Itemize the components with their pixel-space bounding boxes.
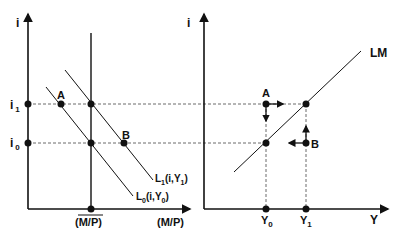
- point-a-right: [263, 101, 270, 108]
- right-x-axis-label: Y: [370, 213, 378, 227]
- point-a-left: [58, 101, 65, 108]
- point-b-left-label: B: [122, 129, 130, 141]
- y1-axis-point: [303, 206, 310, 213]
- i0-label: i0: [10, 136, 20, 152]
- i1-axis-point: [25, 101, 32, 108]
- l1-label: L1(i,Y1): [155, 173, 188, 186]
- right-y-axis-label: i: [187, 16, 190, 30]
- l0-supply-intersection: [88, 140, 95, 147]
- i0-axis-point: [25, 140, 32, 147]
- i1-label: i1: [10, 98, 20, 114]
- y0-label: Y0: [261, 214, 273, 229]
- l1-curve: [65, 70, 153, 180]
- left-panel: i (M/P) i1 i0 A B L1(i,Y1) L0(i,Y0) (M/P…: [10, 14, 306, 228]
- money-market-lm-diagram: i (M/P) i1 i0 A B L1(i,Y1) L0(i,Y0) (M/P…: [0, 0, 401, 238]
- point-b-right-label: B: [311, 138, 319, 150]
- left-y-axis-label: i: [16, 16, 19, 30]
- supply-label: (M/P): [75, 216, 102, 228]
- lm-y0-point: [263, 140, 270, 147]
- lm-label: LM: [370, 46, 387, 60]
- y0-axis-point: [263, 206, 270, 213]
- lm-y1-point: [303, 101, 310, 108]
- l1-supply-intersection: [88, 101, 95, 108]
- left-x-axis-label: (M/P): [157, 216, 184, 228]
- supply-axis-point: [88, 206, 95, 213]
- l0-label: L0(i,Y0): [136, 191, 169, 204]
- point-b-right: [303, 140, 310, 147]
- lm-curve: [234, 51, 361, 172]
- right-panel: i Y LM A B Y0 Y1: [187, 14, 388, 229]
- point-a-left-label: A: [57, 89, 65, 101]
- y1-label: Y1: [300, 214, 312, 229]
- point-a-right-label: A: [262, 87, 270, 99]
